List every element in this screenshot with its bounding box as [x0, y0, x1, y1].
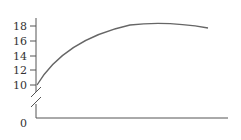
y-tick-label-10: 10: [13, 79, 27, 92]
y-tick-label-18: 18: [13, 20, 27, 33]
y-tick-label-16: 16: [13, 35, 27, 48]
y-ticks: [30, 26, 36, 85]
y-tick-label-14: 14: [13, 50, 27, 63]
data-line: [37, 23, 208, 85]
y-tick-label-0: 0: [20, 117, 27, 130]
y-tick-label-12: 12: [13, 64, 27, 77]
line-chart: 18 16 14 12 10 0: [0, 0, 241, 140]
